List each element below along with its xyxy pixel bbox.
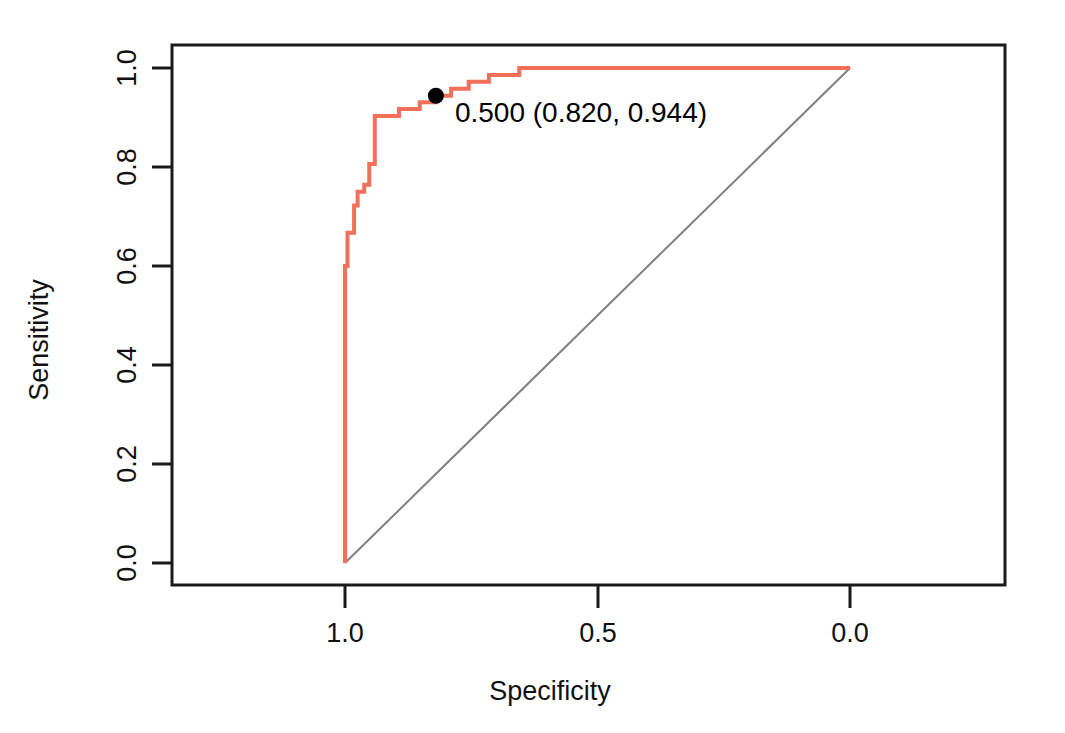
y-tick-label-5: 1.0 — [112, 49, 142, 87]
x-tick-label-0: 1.0 — [326, 618, 364, 648]
y-tick-label-3: 0.6 — [112, 247, 142, 285]
y-axis-title: Sensitivity — [24, 279, 54, 401]
x-tick-label-1: 0.5 — [579, 618, 617, 648]
x-axis-title: Specificity — [489, 676, 611, 706]
y-tick-label-0: 0.0 — [112, 544, 142, 582]
y-tick-label-1: 0.2 — [112, 445, 142, 483]
y-tick-label-2: 0.4 — [112, 346, 142, 384]
roc-curve-plot: 0.0 0.2 0.4 0.6 0.8 1.0 1.0 0.5 0.0 Spec… — [0, 0, 1065, 733]
y-tick-label-4: 0.8 — [112, 148, 142, 186]
optimal-threshold-point — [428, 88, 444, 104]
optimal-threshold-label: 0.500 (0.820, 0.944) — [455, 97, 707, 128]
x-tick-label-2: 0.0 — [831, 618, 869, 648]
